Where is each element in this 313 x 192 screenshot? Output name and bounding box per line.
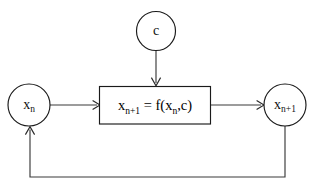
map-lhs-subscript: n+1 xyxy=(125,106,140,116)
edge-map-to-xn1 xyxy=(211,100,264,109)
state-out-subscript: n+1 xyxy=(281,104,296,114)
block-diagram: c xn xn+1 = f(xn,c) xn+1 xyxy=(0,0,313,192)
edge-xn-to-map xyxy=(50,100,100,109)
map-fn-close: ,c) xyxy=(177,97,192,114)
node-state-out[interactable]: xn+1 xyxy=(264,84,306,126)
diagram-canvas: c xn xn+1 = f(xn,c) xn+1 xyxy=(0,0,313,192)
node-parameter-c[interactable]: c xyxy=(137,12,176,51)
state-in-base: x xyxy=(23,97,30,112)
edge-c-to-map xyxy=(151,50,160,86)
parameter-label: c xyxy=(153,23,159,38)
node-state-in[interactable]: xn xyxy=(8,84,50,126)
node-map-block[interactable]: xn+1 = f(xn,c) xyxy=(100,87,211,125)
map-equals: = xyxy=(140,97,155,113)
map-fn-open: f(x xyxy=(155,97,173,114)
state-out-base: x xyxy=(274,97,281,112)
edge-feedback xyxy=(25,126,285,177)
state-in-subscript: n xyxy=(30,104,35,114)
